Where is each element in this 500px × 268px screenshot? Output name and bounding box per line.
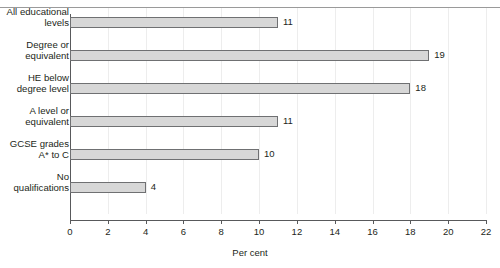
category-label-line: A* to C (0, 149, 69, 160)
x-tick-label-10: 10 (239, 226, 279, 237)
x-tick-label-12: 12 (277, 226, 317, 237)
category-label-line: equivalent (0, 116, 69, 127)
x-tick-label-22: 22 (466, 226, 500, 237)
x-tick-label-4: 4 (126, 226, 166, 237)
bar-value-label: 19 (434, 49, 445, 60)
x-tick-4 (146, 220, 147, 224)
bar (70, 50, 429, 61)
x-axis-title: Per cent (0, 247, 500, 258)
bar (70, 17, 278, 28)
x-tick-label-14: 14 (315, 226, 355, 237)
x-tick-10 (259, 220, 260, 224)
bar-value-label: 11 (283, 16, 293, 27)
gridline-12 (297, 8, 298, 214)
category-label: GCSE gradesA* to C (0, 138, 69, 161)
category-label: HE belowdegree level (0, 72, 69, 95)
x-axis-line (70, 220, 487, 221)
category-label-line: Degree or (0, 39, 69, 50)
category-label-line: degree level (0, 83, 69, 94)
category-label-line: GCSE grades (0, 138, 69, 149)
x-tick-8 (221, 220, 222, 224)
x-tick-0 (70, 220, 71, 224)
x-tick-20 (448, 220, 449, 224)
x-tick-label-20: 20 (428, 226, 468, 237)
category-label-line: equivalent (0, 50, 69, 61)
x-tick-2 (108, 220, 109, 224)
x-tick-label-6: 6 (163, 226, 203, 237)
bar (70, 116, 278, 127)
bar-value-label: 10 (264, 148, 275, 159)
gridline-16 (373, 8, 374, 214)
x-tick-18 (410, 220, 411, 224)
category-label-line: A level or (0, 105, 69, 116)
gridline-10 (259, 8, 260, 214)
category-label-line: HE below (0, 72, 69, 83)
bar (70, 83, 410, 94)
x-tick-22 (486, 220, 487, 224)
gridline-6 (183, 8, 184, 214)
bar-value-label: 18 (415, 82, 426, 93)
gridline-14 (335, 8, 336, 214)
x-tick-16 (373, 220, 374, 224)
bar (70, 182, 146, 193)
chart-title-clipped (46, 0, 466, 4)
x-tick-14 (335, 220, 336, 224)
category-label-line: No (0, 171, 69, 182)
x-tick-6 (183, 220, 184, 224)
gridline-20 (448, 8, 449, 214)
gridline-18 (410, 8, 411, 214)
category-label-line: levels (0, 17, 69, 28)
category-label-line: qualifications (0, 182, 69, 193)
category-label-line: All educational (0, 6, 69, 17)
category-label: A level orequivalent (0, 105, 69, 128)
bar-value-label: 4 (151, 181, 156, 192)
category-label: Noqualifications (0, 171, 69, 194)
category-label: Degree orequivalent (0, 39, 69, 62)
bar (70, 149, 259, 160)
bar-chart: 0246810121416182022 11191811104 All educ… (0, 8, 500, 268)
x-tick-label-0: 0 (50, 226, 90, 237)
x-tick-label-16: 16 (353, 226, 393, 237)
x-tick-label-2: 2 (88, 226, 128, 237)
x-tick-12 (297, 220, 298, 224)
gridline-8 (221, 8, 222, 214)
gridline-4 (146, 8, 147, 214)
gridline-22 (486, 8, 487, 214)
category-label: All educationallevels (0, 6, 69, 29)
bar-value-label: 11 (283, 115, 293, 126)
x-tick-label-8: 8 (201, 226, 241, 237)
x-tick-label-18: 18 (390, 226, 430, 237)
